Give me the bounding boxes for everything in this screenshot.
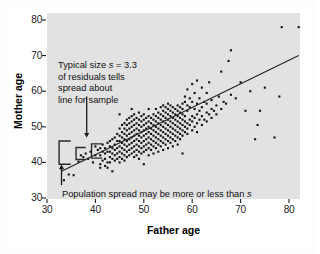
scatter-point — [138, 158, 140, 160]
scatter-point — [114, 160, 116, 162]
scatter-point — [138, 124, 140, 126]
scatter-point — [133, 151, 135, 153]
scatter-point — [208, 81, 210, 83]
scatter-point — [133, 113, 135, 115]
scatter-point — [94, 145, 96, 147]
scatter-point — [174, 140, 176, 142]
scatter-point — [220, 71, 222, 73]
scatter-point — [278, 95, 280, 97]
scatter-point — [143, 113, 145, 115]
scatter-point — [165, 138, 167, 140]
annotation-line-1-pre: Typical size — [58, 60, 109, 70]
scatter-point — [264, 87, 266, 89]
scatter-point — [104, 165, 106, 167]
scatter-point — [128, 117, 130, 119]
scatter-point — [160, 135, 162, 137]
scatter-point — [133, 119, 135, 121]
scatter-point — [140, 147, 142, 149]
scatter-point — [198, 119, 200, 121]
scatter-point — [85, 152, 87, 154]
scatter-point — [128, 149, 130, 151]
annotation-population-spread-note: Population spread may be more or less th… — [62, 189, 252, 201]
scatter-point — [114, 154, 116, 156]
scatter-point — [201, 87, 203, 89]
scatter-point — [145, 144, 147, 146]
scatter-point — [160, 106, 162, 108]
scatter-point — [119, 128, 121, 130]
scatter-point — [126, 119, 128, 121]
scatter-point — [165, 117, 167, 119]
scatter-point — [194, 92, 196, 94]
annotation-bottom-pre: Population spread may be more or less th… — [62, 189, 247, 199]
scatter-point — [135, 154, 137, 156]
scatter-point — [126, 135, 128, 137]
scatter-point — [116, 147, 118, 149]
scatter-point — [131, 115, 133, 117]
annotation-line-4: line for sample — [58, 95, 137, 107]
scatter-point — [104, 158, 106, 160]
scatter-point — [256, 124, 258, 126]
scatter-point — [135, 149, 137, 151]
scatter-point — [119, 140, 121, 142]
scatter-point — [211, 108, 213, 110]
scatter-point — [99, 147, 101, 149]
scatter-point — [109, 151, 111, 153]
scatter-point — [227, 60, 229, 62]
scatter-point — [143, 140, 145, 142]
scatter-point — [172, 138, 174, 140]
scatter-point — [121, 158, 123, 160]
scatter-point — [133, 156, 135, 158]
scatter-point — [162, 115, 164, 117]
scatter-point — [167, 108, 169, 110]
scatter-point — [123, 149, 125, 151]
scatter-point — [131, 108, 133, 110]
scatter-point — [155, 142, 157, 144]
scatter-point — [254, 138, 256, 140]
scatter-point — [179, 138, 181, 140]
scatter-point — [167, 124, 169, 126]
scatter-point — [181, 108, 183, 110]
scatter-point — [123, 144, 125, 146]
scatter-point — [177, 120, 179, 122]
scatter-point — [169, 120, 171, 122]
scatter-point — [169, 126, 171, 128]
scatter-point — [191, 101, 193, 103]
x-tick-label: 30 — [31, 204, 63, 215]
scatter-point — [150, 133, 152, 135]
scatter-point — [196, 131, 198, 133]
scatter-point — [106, 161, 108, 163]
scatter-point — [119, 135, 121, 137]
scatter-point — [126, 129, 128, 131]
scatter-point — [152, 113, 154, 115]
scatter-point — [160, 124, 162, 126]
scatter-point — [135, 122, 137, 124]
scatter-point — [160, 113, 162, 115]
scatter-point — [172, 145, 174, 147]
scatter-point — [106, 151, 108, 153]
scatter-point — [155, 147, 157, 149]
scatter-point — [186, 88, 188, 90]
scatter-point — [128, 133, 130, 135]
scatter-point — [152, 135, 154, 137]
scatter-point — [167, 147, 169, 149]
scatter-point — [155, 131, 157, 133]
scatter-point — [111, 158, 113, 160]
scatter-point — [121, 131, 123, 133]
scatter-point — [162, 131, 164, 133]
scatter-point — [143, 119, 145, 121]
annotation-line-2: of residuals tells — [58, 72, 137, 84]
scatter-point — [148, 147, 150, 149]
scatter-point — [119, 151, 121, 153]
scatter-point — [150, 149, 152, 151]
scatter-point — [184, 126, 186, 128]
scatter-point — [213, 110, 215, 112]
scatter-point — [179, 133, 181, 135]
scatter-point — [148, 154, 150, 156]
scatter-point — [194, 117, 196, 119]
scatter-point — [138, 145, 140, 147]
scatter-point — [191, 115, 193, 117]
scatter-point — [167, 113, 169, 115]
scatter-point — [169, 110, 171, 112]
scatter-point — [138, 112, 140, 114]
scatter-point — [119, 113, 121, 115]
